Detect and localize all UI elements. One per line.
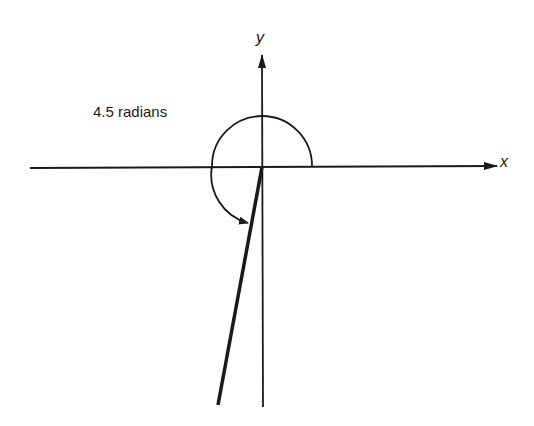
- y-axis: [262, 55, 263, 407]
- x-axis-label: x: [500, 153, 508, 171]
- terminal-side: [218, 167, 262, 405]
- angle-label: 4.5 radians: [93, 103, 167, 120]
- y-axis-label: y: [256, 29, 264, 47]
- angle-diagram: [0, 0, 534, 426]
